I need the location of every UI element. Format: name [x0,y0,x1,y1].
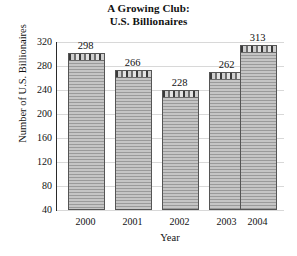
bar-value-label: 228 [157,77,203,88]
plot-area [56,42,284,211]
y-tick-label: 320 [22,37,52,47]
chart-figure: A Growing Club: U.S. Billionaires Number… [0,0,297,256]
bar-value-label: 262 [204,59,250,70]
x-tick-label: 2002 [156,216,204,227]
bar[interactable] [68,53,105,210]
chart-title: A Growing Club: U.S. Billionaires [0,2,297,28]
bar[interactable] [162,90,199,210]
x-tick-label: 2004 [234,216,282,227]
y-tick-label: 40 [22,205,52,215]
y-tick-label: 160 [22,133,52,143]
y-tick-label: 200 [22,109,52,119]
bar-cap [241,46,276,53]
bar-cap [163,91,198,98]
y-axis-tick-labels: 320 280 240 200 160 120 80 40 [18,42,52,211]
bar-value-label: 313 [235,32,281,43]
bar-cap [116,71,151,78]
gridline [57,210,284,211]
x-axis-title: Year [56,232,284,243]
y-tick-label: 120 [22,157,52,167]
bar-value-label: 266 [110,57,156,68]
bar-value-label: 298 [63,40,109,51]
y-tick-label: 240 [22,85,52,95]
y-tick-label: 280 [22,61,52,71]
y-tick-label: 80 [22,181,52,191]
x-tick-label: 2000 [62,216,110,227]
bar[interactable] [115,70,152,210]
chart-title-line-1: A Growing Club: [107,2,190,14]
x-tick-label: 2001 [109,216,157,227]
chart-title-line-2: U.S. Billionaires [0,15,297,28]
bar-cap [69,54,104,61]
